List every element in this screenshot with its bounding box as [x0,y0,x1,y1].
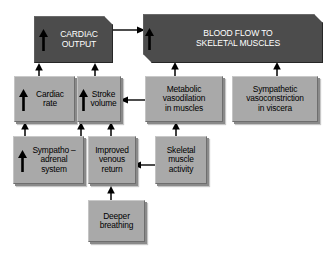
node-improved-venous-return[interactable]: Improved venous return [88,136,136,184]
connector-sympatho-adrenal-to-stroke-volume [75,122,87,137]
node-skeletal-muscle-activity[interactable]: Skeletal muscle activity [155,136,207,184]
connector-metabolic-vasodilation-to-stroke-volume [120,94,146,106]
node-label: Sympathetic vasoconstriction in viscera [246,85,304,113]
connector-skeletal-muscle-activity-to-improved-venous-return [133,159,155,171]
node-label: Skeletal muscle activity [167,146,196,174]
node-label: Deeper breathing [100,212,134,231]
connector-cardiac-output-to-blood-flow [112,24,146,36]
node-label: Metabolic vasodilation in muscles [163,85,205,113]
flow-diagram: CARDIAC OUTPUT BLOOD FLOW TO SKELETAL MU… [0,0,336,254]
node-blood-flow-to-skeletal-muscles[interactable]: BLOOD FLOW TO SKELETAL MUSCLES [143,14,323,63]
node-label: CARDIAC OUTPUT [49,30,98,49]
node-sympatho-adrenal-system[interactable]: Sympatho – adrenal system [13,136,84,184]
node-label: Sympatho – adrenal system [21,146,75,174]
connector-metabolic-vasodilation-to-blood-flow [169,62,181,77]
connector-sympatho-adrenal-to-cardiac-rate [19,122,31,137]
increase-arrow-icon [19,89,28,111]
connector-improved-venous-return-to-stroke-volume [105,122,117,137]
node-sympathetic-vasoconstriction[interactable]: Sympathetic vasoconstriction in viscera [232,76,318,122]
node-deeper-breathing[interactable]: Deeper breathing [88,200,145,242]
node-cardiac-output[interactable]: CARDIAC OUTPUT [34,16,113,63]
connector-sympathetic-vasoconstriction-to-blood-flow [271,62,283,77]
increase-arrow-icon [145,28,154,50]
connector-deeper-breathing-to-improved-venous-return [105,186,117,201]
connector-skeletal-muscle-activity-to-metabolic-vasodilation [170,122,182,137]
node-label: BLOOD FLOW TO SKELETAL MUSCLES [186,29,280,48]
node-stroke-volume[interactable]: Stroke volume [77,76,121,122]
node-label: Cardiac rate [25,90,64,109]
increase-arrow-icon [18,150,27,172]
node-metabolic-vasodilation[interactable]: Metabolic vasodilation in muscles [145,76,223,122]
node-cardiac-rate[interactable]: Cardiac rate [14,76,75,122]
node-label: Improved venous return [95,146,129,174]
increase-arrow-icon [39,29,48,51]
increase-arrow-icon [79,89,88,111]
